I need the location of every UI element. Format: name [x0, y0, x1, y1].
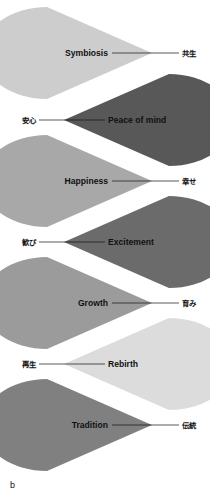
japanese-label-4: 歓び: [21, 238, 37, 247]
english-label-1: Symbiosis: [65, 48, 108, 58]
figure-caption: b: [10, 480, 15, 490]
english-label-2: Peace of mind: [108, 115, 166, 125]
english-label-4: Excitement: [108, 237, 154, 247]
english-label-6: Rebirth: [108, 359, 138, 369]
japanese-label-3: 幸せ: [182, 177, 196, 186]
japanese-label-7: 伝統: [182, 421, 197, 430]
english-label-7: Tradition: [72, 420, 108, 430]
english-label-5: Growth: [78, 298, 108, 308]
diagram-canvas: Symbiosis共生Peace of mind安心Happiness幸せExc…: [0, 0, 210, 496]
japanese-label-2: 安心: [22, 116, 37, 125]
cone-diagram-figure: Symbiosis共生Peace of mind安心Happiness幸せExc…: [0, 0, 210, 496]
japanese-label-6: 再生: [22, 360, 37, 369]
english-label-3: Happiness: [65, 176, 109, 186]
japanese-label-1: 共生: [182, 49, 197, 58]
japanese-label-5: 育み: [182, 299, 197, 308]
